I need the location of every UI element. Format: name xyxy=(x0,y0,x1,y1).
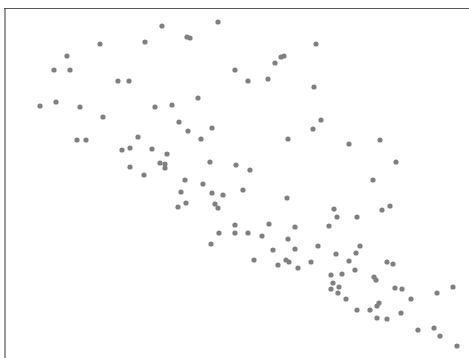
data-point xyxy=(398,310,403,315)
data-point xyxy=(135,134,140,139)
data-point xyxy=(370,177,375,182)
data-point xyxy=(331,206,336,211)
data-point xyxy=(51,67,56,72)
data-point xyxy=(354,307,359,312)
data-point xyxy=(185,128,190,133)
data-point xyxy=(352,267,357,272)
data-point xyxy=(335,290,340,295)
data-point xyxy=(373,277,378,282)
data-point xyxy=(275,262,280,267)
data-point xyxy=(326,223,331,228)
data-point xyxy=(336,284,341,289)
data-point xyxy=(284,195,289,200)
data-point xyxy=(175,204,180,209)
data-point xyxy=(454,343,459,348)
data-point xyxy=(232,222,237,227)
data-point xyxy=(339,271,344,276)
data-point xyxy=(393,159,398,164)
data-point xyxy=(318,117,323,122)
data-point xyxy=(220,192,225,197)
data-point xyxy=(164,151,169,156)
data-point xyxy=(216,230,221,235)
data-point xyxy=(77,104,82,109)
data-point xyxy=(292,224,297,229)
data-point xyxy=(232,67,237,72)
data-point xyxy=(240,187,245,192)
data-point xyxy=(247,167,252,172)
data-point xyxy=(308,259,313,264)
data-point xyxy=(311,84,316,89)
data-point xyxy=(377,137,382,142)
data-point xyxy=(208,241,213,246)
data-points xyxy=(37,19,459,348)
data-point xyxy=(200,181,205,186)
data-point xyxy=(310,126,315,131)
data-point xyxy=(281,53,286,58)
data-point xyxy=(178,189,183,194)
data-point xyxy=(379,207,384,212)
data-point xyxy=(353,250,358,255)
data-point xyxy=(399,286,404,291)
data-point xyxy=(233,162,238,167)
data-point xyxy=(100,114,105,119)
data-point xyxy=(215,205,220,210)
data-point xyxy=(141,172,146,177)
data-point xyxy=(285,236,290,241)
data-point xyxy=(357,243,362,248)
data-point xyxy=(215,19,220,24)
data-point xyxy=(187,35,192,40)
data-point xyxy=(83,137,88,142)
data-point xyxy=(127,145,132,150)
data-point xyxy=(266,221,271,226)
data-point xyxy=(330,280,335,285)
data-point xyxy=(245,230,250,235)
data-point xyxy=(67,67,72,72)
data-point xyxy=(295,265,300,270)
data-point xyxy=(245,78,250,83)
data-point xyxy=(374,315,379,320)
data-point xyxy=(450,284,455,289)
data-point xyxy=(265,76,270,81)
data-point xyxy=(334,214,339,219)
plot-frame xyxy=(4,8,469,358)
data-point xyxy=(286,259,291,264)
data-point xyxy=(209,125,214,130)
data-point xyxy=(207,159,212,164)
data-point xyxy=(157,160,162,165)
data-point xyxy=(53,99,58,104)
data-point xyxy=(384,259,389,264)
data-point xyxy=(183,200,188,205)
data-point xyxy=(354,214,359,219)
data-point xyxy=(434,290,439,295)
data-point xyxy=(431,325,436,330)
data-point xyxy=(182,177,187,182)
scatter-plot xyxy=(0,0,469,358)
data-point xyxy=(152,104,157,109)
data-point xyxy=(149,146,154,151)
data-point xyxy=(292,246,297,251)
data-point xyxy=(251,257,256,262)
data-point xyxy=(367,307,372,312)
data-point xyxy=(142,39,147,44)
data-point xyxy=(74,137,79,142)
data-point xyxy=(127,164,132,169)
data-point xyxy=(408,296,413,301)
data-point xyxy=(159,23,164,28)
data-point xyxy=(285,136,290,141)
data-point xyxy=(115,78,120,83)
data-point xyxy=(328,286,333,291)
data-point xyxy=(392,285,397,290)
data-point xyxy=(195,95,200,100)
data-point xyxy=(343,296,348,301)
data-point xyxy=(97,41,102,46)
data-point xyxy=(176,119,181,124)
data-point xyxy=(162,165,167,170)
data-point xyxy=(437,333,442,338)
data-point xyxy=(37,103,42,108)
data-point xyxy=(119,147,124,152)
data-point xyxy=(315,243,320,248)
data-point xyxy=(313,41,318,46)
data-point xyxy=(415,327,420,332)
data-point xyxy=(232,230,237,235)
data-point xyxy=(270,247,275,252)
